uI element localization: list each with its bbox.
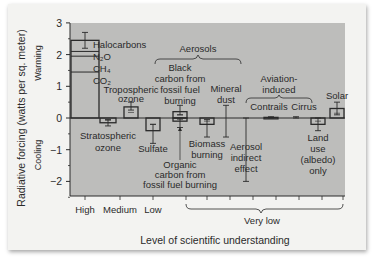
- label-solar: Solar: [326, 90, 348, 101]
- label-n2o: N₂O: [93, 51, 111, 62]
- radiative-forcing-chart: −2−10123 Radiative forcing (watts per sq…: [0, 0, 379, 263]
- label-aerosol-indirect: Aerosol: [230, 141, 262, 152]
- label-tropospheric-ozone-2: ozone: [118, 93, 144, 104]
- x-label-very-low: Very low: [244, 215, 280, 226]
- y-tick-label: 0: [56, 112, 62, 124]
- y-tick-label: −2: [50, 175, 62, 187]
- label-black-carbon-4: burning: [164, 95, 196, 106]
- bar-contrails: [264, 117, 278, 119]
- label-black-carbon-2: carbon from: [155, 73, 206, 84]
- x-label-low: Low: [144, 204, 162, 215]
- label-aerosol-indirect-3: effect: [234, 163, 257, 174]
- label-contrails: Contrails: [250, 101, 288, 112]
- label-stratospheric-ozone-2: ozone: [95, 142, 121, 153]
- label-land-use-1: Land: [307, 132, 328, 143]
- y-label-warming: Warming: [33, 45, 43, 81]
- label-black-carbon-3: fossil fuel: [160, 84, 200, 95]
- label-sulfate: Sulfate: [138, 143, 168, 154]
- label-aerosols: Aerosols: [180, 43, 217, 54]
- label-mineral-dust-2: dust: [217, 94, 235, 105]
- label-land-use-2: use: [310, 143, 325, 154]
- y-axis-title: Radiative forcing (watts per sq. meter): [15, 29, 27, 206]
- x-label-medium: Medium: [103, 204, 137, 215]
- label-halocarbons: Halocarbons: [93, 39, 147, 50]
- very-low-brace: [186, 204, 343, 213]
- label-organic-carbon-3: fossil fuel burning: [143, 179, 217, 190]
- y-tick-label: 1: [56, 80, 62, 92]
- y-tick-label: 2: [56, 49, 62, 61]
- label-aviation-induced-2: induced: [262, 84, 295, 95]
- label-land-use-3: (albedo): [301, 154, 336, 165]
- y-tick-label: 3: [56, 17, 62, 29]
- y-tick-label: −1: [50, 144, 62, 156]
- label-biomass-burning-2: burning: [191, 149, 223, 160]
- label-stratospheric-ozone: Stratospheric: [80, 130, 136, 141]
- x-label-high: High: [75, 204, 95, 215]
- label-cirrus: Cirrus: [291, 101, 317, 112]
- label-aerosol-indirect-2: indirect: [231, 152, 262, 163]
- label-mineral-dust: Mineral: [210, 83, 241, 94]
- label-aviation-induced: Aviation-: [261, 73, 298, 84]
- y-label-cooling: Cooling: [33, 140, 43, 171]
- label-ch4: CH₄: [93, 63, 111, 74]
- label-biomass-burning: Biomass: [189, 138, 226, 149]
- x-axis-title: Level of scientific understanding: [140, 234, 290, 246]
- label-black-carbon-1: Black: [168, 62, 191, 73]
- label-land-use-4: only: [309, 165, 327, 176]
